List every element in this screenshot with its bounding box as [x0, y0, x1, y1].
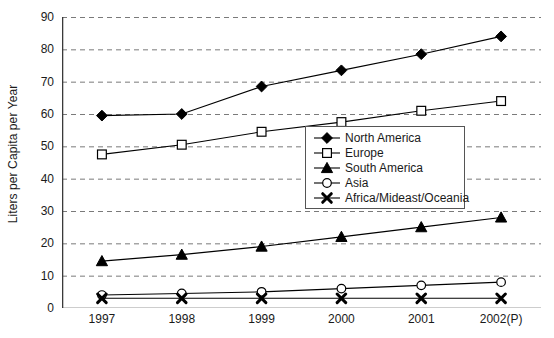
- legend-marker-filled-diamond: [312, 131, 342, 145]
- y-axis-tick-label: 10: [30, 270, 54, 282]
- y-axis-tick-label: 90: [30, 11, 54, 23]
- data-point-open-circle: [337, 284, 346, 293]
- plot-area: [62, 17, 541, 308]
- data-point-filled-triangle: [495, 212, 506, 222]
- legend-item-1: Europe: [306, 145, 464, 160]
- x-axis-tick-label: 1999: [248, 313, 275, 325]
- data-point-open-square: [417, 106, 426, 115]
- series-3: [98, 278, 506, 300]
- y-axis-tick-label: 50: [30, 140, 54, 152]
- data-point-open-square: [497, 97, 506, 106]
- data-point-open-circle: [417, 281, 426, 290]
- data-point-open-square: [323, 148, 332, 157]
- data-point-open-square: [177, 140, 186, 149]
- data-point-open-square: [98, 150, 107, 159]
- y-axis-tick-label: 0: [30, 302, 54, 314]
- legend-marker-x-cross: [312, 191, 342, 205]
- x-axis-tick-label: 2002(P): [480, 313, 523, 325]
- data-point-filled-diamond: [322, 132, 333, 143]
- x-axis-tick-label: 2000: [328, 313, 355, 325]
- legend-item-3: Asia: [306, 175, 464, 190]
- data-point-open-circle: [323, 178, 332, 187]
- x-axis-tick-label: 2001: [408, 313, 435, 325]
- y-axis-tick-label: 40: [30, 173, 54, 185]
- series-line: [102, 217, 501, 261]
- legend-item-0: North America: [306, 130, 464, 145]
- y-axis-tick-label: 70: [30, 76, 54, 88]
- data-point-filled-diamond: [176, 109, 187, 120]
- series-line: [102, 282, 501, 295]
- line-chart: Liters per Capita per Year 0102030405060…: [0, 0, 554, 338]
- legend-item-4: Africa/Mideast/Oceania: [306, 190, 464, 205]
- legend-marker-open-circle: [312, 176, 342, 190]
- legend-item-2: South America: [306, 160, 464, 175]
- legend-label: North America: [342, 132, 421, 144]
- y-axis-tick-labels: 0102030405060708090: [26, 0, 54, 338]
- x-axis-tick-label: 1997: [89, 313, 116, 325]
- data-point-filled-diamond: [97, 110, 108, 121]
- legend-marker-open-square: [312, 146, 342, 160]
- legend-label: Europe: [342, 147, 384, 159]
- y-axis-tick-label: 80: [30, 43, 54, 55]
- data-point-filled-diamond: [496, 31, 507, 42]
- y-axis-tick-label: 30: [30, 205, 54, 217]
- data-point-filled-diamond: [416, 49, 427, 60]
- legend-label: South America: [342, 162, 423, 174]
- data-point-open-square: [257, 127, 266, 136]
- data-point-filled-diamond: [256, 81, 267, 92]
- series-line: [102, 36, 501, 115]
- y-axis-tick-label: 60: [30, 108, 54, 120]
- plot-svg: [62, 17, 541, 308]
- data-point-open-circle: [497, 278, 506, 287]
- series-2: [96, 212, 506, 266]
- y-axis-title-text: Liters per Capita per Year: [6, 85, 20, 224]
- legend-marker-filled-triangle: [312, 161, 342, 175]
- legend-label: Africa/Mideast/Oceania: [342, 192, 469, 204]
- data-point-filled-diamond: [336, 65, 347, 76]
- series-4: [98, 294, 506, 303]
- legend-label: Asia: [342, 177, 368, 189]
- chart-legend: North AmericaEuropeSouth AmericaAsiaAfri…: [305, 126, 465, 209]
- y-axis-tick-label: 20: [30, 237, 54, 249]
- x-axis-tick-label: 1998: [168, 313, 195, 325]
- y-axis-title: Liters per Capita per Year: [0, 0, 26, 308]
